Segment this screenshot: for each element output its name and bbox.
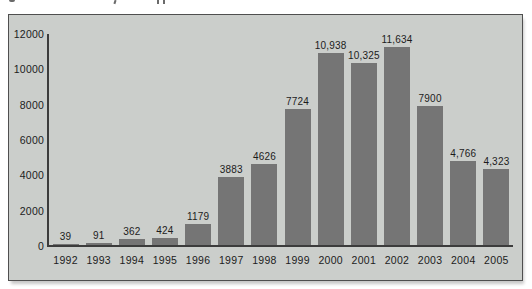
x-tick-label: 1995: [148, 254, 181, 266]
y-tick-label: 8000: [11, 99, 44, 111]
bar-value-label: 7900: [419, 93, 442, 104]
bar-slot: 4626: [248, 34, 281, 245]
cropped-text-fragment: [113, 0, 116, 4]
x-tick-label: 2004: [447, 254, 480, 266]
bar-slot: 3883: [215, 34, 248, 245]
x-axis-line: [47, 245, 513, 247]
x-tick-label: 1996: [182, 254, 215, 266]
x-tick-label: 2002: [380, 254, 413, 266]
bar: [251, 164, 277, 245]
bar-value-label: 4,323: [483, 156, 509, 167]
bar-slot: 10,938: [314, 34, 347, 245]
cropped-text-fragment: [9, 0, 15, 2]
x-tick-label: 2005: [480, 254, 513, 266]
bar-slot: 4,766: [447, 34, 480, 245]
bar-value-label: 39: [60, 231, 72, 242]
bar-slot: 424: [148, 34, 181, 245]
bar: [417, 106, 443, 245]
y-tick-label: 4000: [11, 169, 44, 181]
bar-value-label: 1179: [187, 211, 209, 222]
bar-value-label: 3883: [220, 164, 243, 175]
y-tick-label: 0: [11, 240, 44, 252]
y-tick-label: 6000: [11, 134, 44, 146]
x-tick-label: 2003: [414, 254, 447, 266]
bar: [53, 244, 79, 245]
x-axis-labels: 1992199319941995199619971998199920002001…: [49, 254, 513, 266]
x-tick-label: 1994: [115, 254, 148, 266]
bar-slot: 39: [49, 34, 82, 245]
bar: [218, 177, 244, 245]
bar: [119, 239, 145, 245]
bar-slot: 4,323: [480, 34, 513, 245]
y-tick-label: 10000: [11, 63, 44, 75]
bar-slot: 10,325: [347, 34, 380, 245]
y-tick-label: 2000: [11, 205, 44, 217]
bar-value-label: 4,766: [450, 148, 476, 159]
bar: [86, 243, 112, 245]
x-tick-label: 2000: [314, 254, 347, 266]
bar-slot: 91: [82, 34, 115, 245]
bar-value-label: 11,634: [381, 34, 412, 45]
bar-value-label: 362: [123, 226, 140, 237]
page: 120001000080006000400020000 399136242411…: [0, 0, 532, 289]
bar: [285, 109, 311, 245]
bars: 3991362424117938834626772410,93810,32511…: [49, 34, 513, 245]
bar: [318, 53, 344, 245]
bar: [384, 47, 410, 245]
x-tick-label: 2001: [347, 254, 380, 266]
bar: [351, 63, 377, 245]
bar: [483, 169, 509, 245]
bar-value-label: 424: [156, 225, 173, 236]
bar-slot: 362: [115, 34, 148, 245]
x-tick-label: 1993: [82, 254, 115, 266]
bar: [185, 224, 211, 245]
bar-value-label: 4626: [253, 151, 276, 162]
bar-value-label: 7724: [286, 96, 309, 107]
y-tick-label: 12000: [11, 28, 44, 40]
cropped-text-fragment: [163, 0, 165, 4]
bar: [152, 238, 178, 245]
x-tick-label: 1997: [215, 254, 248, 266]
bar-value-label: 10,938: [315, 40, 347, 51]
x-tick-label: 1998: [248, 254, 281, 266]
x-tick-label: 1999: [281, 254, 314, 266]
x-tick-label: 1992: [49, 254, 82, 266]
bar: [450, 161, 476, 245]
bar-slot: 7724: [281, 34, 314, 245]
cropped-text-fragment: [157, 0, 159, 4]
bar-value-label: 10,325: [348, 50, 380, 61]
bar-slot: 7900: [414, 34, 447, 245]
chart-panel: 120001000080006000400020000 399136242411…: [8, 14, 523, 281]
bar-value-label: 91: [93, 230, 105, 241]
bar-slot: 1179: [182, 34, 215, 245]
bar-slot: 11,634: [380, 34, 413, 245]
